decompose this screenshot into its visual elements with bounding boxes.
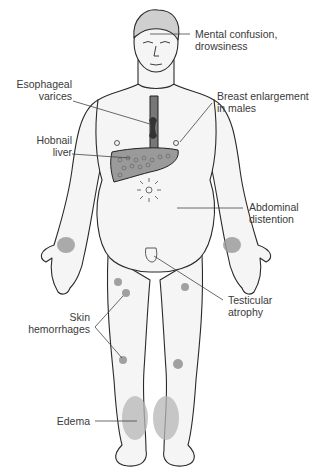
edema-right	[153, 396, 179, 440]
label-mental-confusion: Mental confusion, drowsiness	[195, 28, 277, 52]
edema-left	[122, 396, 148, 440]
hemorrhage-2	[122, 289, 130, 297]
label-esophageal-varices: Esophageal varices	[12, 78, 72, 102]
cirrhosis-body-diagram	[0, 0, 315, 469]
label-skin-hemorrhages: Skin hemorrhages	[20, 311, 90, 335]
palmar-erythema-right	[223, 237, 241, 253]
label-breast-enlargement: Breast enlargement in males	[217, 90, 309, 114]
palmar-erythema-left	[57, 237, 75, 253]
left-arm	[41, 100, 100, 294]
label-edema: Edema	[40, 415, 90, 427]
hemorrhage-4	[119, 356, 127, 364]
label-testicular-atrophy: Testicular atrophy	[228, 294, 272, 318]
hemorrhage-1	[114, 278, 122, 286]
hemorrhage-3	[181, 283, 189, 291]
hemorrhage-5	[173, 359, 183, 369]
label-abdominal-distention: Abdominal distention	[249, 201, 299, 225]
right-arm	[212, 100, 271, 294]
label-hobnail-liver: Hobnail liver	[22, 134, 72, 158]
